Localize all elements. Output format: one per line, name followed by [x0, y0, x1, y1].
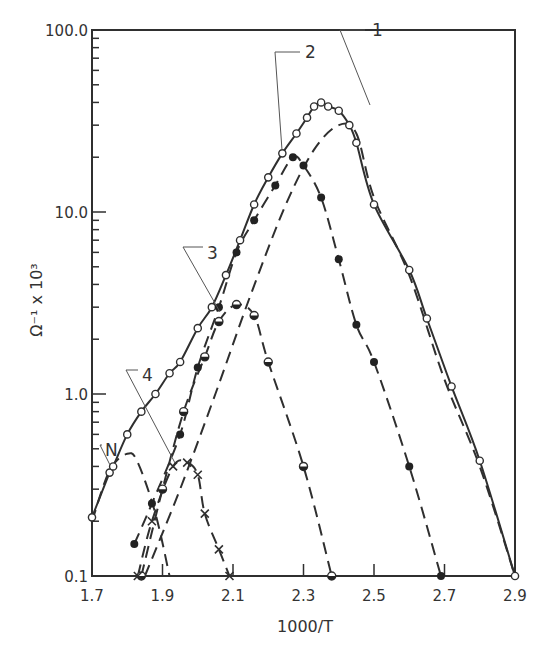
open-circle-marker: [177, 358, 184, 365]
filled-circle-marker: [317, 194, 325, 202]
filled-circle-marker: [352, 321, 360, 329]
open-circle-marker: [310, 103, 317, 110]
filled-circle-marker: [300, 162, 308, 170]
y-tick-label: 10.0: [55, 204, 88, 222]
chart-figure: 0.11.010.0100.01.71.92.12.32.52.72.9 123…: [0, 0, 552, 649]
open-circle-marker: [325, 103, 332, 110]
open-circle-marker: [476, 457, 483, 464]
open-circle-marker: [265, 174, 272, 181]
cross-marker: [169, 462, 177, 470]
open-circle-marker: [370, 201, 377, 208]
x-tick-label: 2.7: [433, 587, 457, 605]
open-circle-marker: [353, 139, 360, 146]
filled-circle-marker: [335, 255, 343, 263]
x-tick-label: 2.5: [362, 587, 386, 605]
y-tick-label: 1.0: [64, 386, 88, 404]
filled-circle-marker: [437, 572, 445, 580]
filled-circle-marker: [271, 181, 279, 189]
cross-marker: [215, 545, 223, 553]
open-circle-marker: [423, 315, 430, 322]
open-circle-marker: [251, 201, 258, 208]
plot-axes: 0.11.010.0100.01.71.92.12.32.52.72.9: [45, 22, 527, 605]
open-circle-marker: [318, 99, 325, 106]
filled-circle-marker: [148, 500, 156, 508]
x-axis-title: 1000/T: [277, 617, 333, 636]
callout-label-N: N: [105, 440, 118, 460]
callout-label-3: 3: [207, 243, 218, 263]
callout-label-2: 2: [305, 42, 316, 62]
x-tick-label: 2.1: [221, 587, 245, 605]
x-tick-label: 1.7: [80, 587, 104, 605]
filled-circle-marker: [176, 430, 184, 438]
plot-frame: [92, 30, 515, 576]
filled-circle-marker: [194, 363, 202, 371]
filled-circle-marker: [370, 358, 378, 366]
open-circle-marker: [236, 237, 243, 244]
x-tick-label: 2.9: [503, 587, 527, 605]
open-circle-marker: [88, 514, 95, 521]
curve-1: [145, 123, 515, 576]
open-circle-marker: [335, 107, 342, 114]
filled-circle-marker: [233, 248, 241, 256]
filled-circle-marker: [130, 540, 138, 548]
open-circle-marker: [448, 383, 455, 390]
callout-label-4: 4: [142, 365, 153, 385]
y-tick-label: 100.0: [45, 22, 88, 40]
x-tick-label: 2.3: [292, 587, 316, 605]
y-tick-label: 0.1: [64, 568, 88, 586]
filled-circle-marker: [250, 216, 258, 224]
open-circle-marker: [166, 370, 173, 377]
filled-circle-marker: [289, 153, 297, 161]
open-circle-marker: [222, 272, 229, 279]
open-circle-marker: [138, 408, 145, 415]
filled-circle-marker: [405, 462, 413, 470]
open-circle-marker: [194, 325, 201, 332]
open-circle-marker: [208, 304, 215, 311]
callout-pointer: [275, 52, 282, 150]
open-circle-marker: [511, 572, 518, 579]
open-circle-marker: [152, 390, 159, 397]
y-axis-title: Ω⁻¹ x 10³: [27, 263, 46, 337]
open-circle-marker: [110, 463, 117, 470]
curve-3: [141, 304, 331, 576]
x-tick-label: 1.9: [151, 587, 175, 605]
open-circle-marker: [124, 431, 131, 438]
open-circle-marker: [303, 114, 310, 121]
open-circle-marker: [279, 150, 286, 157]
curve-5: [92, 453, 170, 576]
callout-label-1: 1: [372, 20, 383, 40]
open-circle-marker: [293, 130, 300, 137]
open-circle-marker: [406, 266, 413, 273]
callout-pointer: [340, 30, 370, 105]
open-circle-marker: [346, 122, 353, 129]
